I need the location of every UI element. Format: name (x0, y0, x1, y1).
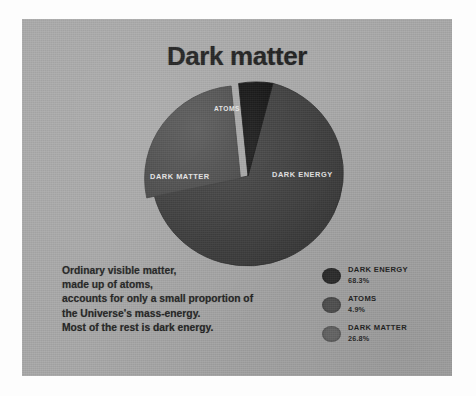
legend-swatch-icon (322, 268, 341, 284)
pie-chart-svg: ATOMS DARK MATTER DARK ENERGY (126, 80, 376, 270)
legend-label-dark-energy: DARK ENERGY (348, 265, 408, 276)
pie-slice-dark-matter (145, 86, 241, 198)
pie-label-dark-energy: DARK ENERGY (272, 170, 333, 179)
page-title: Dark matter (22, 41, 452, 72)
pie-chart: ATOMS DARK MATTER DARK ENERGY (126, 80, 376, 270)
description-text: Ordinary visible matter, made up of atom… (62, 264, 327, 335)
description-line-4: the Universe's mass-energy. (62, 307, 327, 321)
legend-value-dark-matter: 26.8% (348, 334, 407, 345)
legend-swatch-icon (322, 297, 341, 313)
description-line-1: Ordinary visible matter, (62, 264, 327, 278)
description-line-3: accounts for only a small proportion of (62, 292, 327, 306)
description-line-2: made up of atoms, (62, 278, 327, 292)
legend-item-atoms: ATOMS 4.9% (322, 291, 450, 318)
legend-label-atoms: ATOMS (348, 294, 376, 305)
description-line-5: Most of the rest is dark energy. (62, 321, 327, 335)
pie-slice-dark-matter-group (145, 86, 241, 198)
legend-swatch-icon (322, 326, 341, 342)
legend-item-dark-matter: DARK MATTER 26.8% (322, 320, 450, 347)
legend-text-dark-matter: DARK MATTER 26.8% (348, 323, 407, 344)
chart-legend: DARK ENERGY 68.3% ATOMS 4.9% DARK MATTER… (322, 262, 450, 349)
pie-label-atoms: ATOMS (214, 105, 240, 112)
legend-label-dark-matter: DARK MATTER (348, 323, 407, 334)
pie-label-dark-matter: DARK MATTER (150, 172, 210, 181)
legend-value-dark-energy: 68.3% (348, 276, 408, 287)
slide-photo: Dark matter (0, 0, 476, 396)
legend-text-atoms: ATOMS 4.9% (348, 294, 376, 315)
legend-text-dark-energy: DARK ENERGY 68.3% (348, 265, 408, 286)
legend-item-dark-energy: DARK ENERGY 68.3% (322, 262, 450, 289)
slide-panel: Dark matter (22, 19, 452, 376)
legend-value-atoms: 4.9% (348, 305, 376, 316)
